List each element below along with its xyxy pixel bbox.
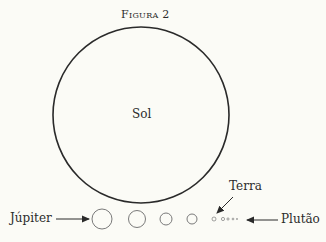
pluto-label: Plutão xyxy=(281,212,320,226)
jupiter-label: Júpiter xyxy=(10,211,52,225)
earth-arrow xyxy=(217,197,233,213)
planet-netuno-circle xyxy=(187,214,197,224)
diagram-svg xyxy=(0,0,326,242)
sun-label: Sol xyxy=(132,107,151,121)
planet-marte-circle xyxy=(227,218,229,220)
planet-terra-circle xyxy=(212,217,216,221)
figure-canvas: Figura 2 Sol Terra Júpiter Plutão xyxy=(0,0,326,242)
planet-urano-circle xyxy=(160,213,172,225)
earth-label: Terra xyxy=(229,179,262,193)
planet-jupiter-circle xyxy=(92,209,112,229)
figure-title: Figura 2 xyxy=(121,8,170,21)
planets-row xyxy=(92,209,238,229)
planet-mercurio-circle xyxy=(232,218,234,220)
planet-plutao-circle xyxy=(236,218,237,219)
planet-saturno-circle xyxy=(129,211,146,228)
planet-venus-circle xyxy=(221,217,224,220)
